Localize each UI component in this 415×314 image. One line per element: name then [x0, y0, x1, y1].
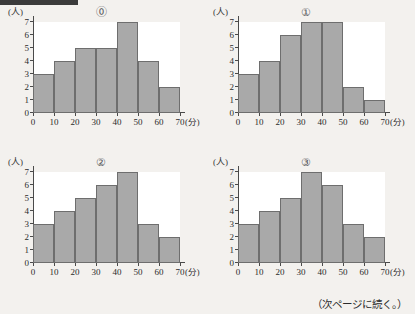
y-tick-label: 6: [224, 181, 234, 190]
x-tick: [138, 113, 139, 116]
y-tick: [30, 171, 33, 172]
y-tick: [235, 210, 238, 211]
y-axis-unit-0: (人): [8, 7, 23, 17]
x-tick-label: 40: [113, 268, 122, 277]
x-tick-label: 10: [50, 118, 59, 127]
x-tick: [159, 263, 160, 266]
y-tick-label: 3: [19, 70, 29, 79]
bar: [138, 61, 159, 113]
x-tick: [75, 263, 76, 266]
y-tick: [235, 184, 238, 185]
y-tick: [30, 223, 33, 224]
y-tick-label: 3: [224, 220, 234, 229]
chart-title-0: ⓪: [26, 6, 176, 18]
x-tick-label: 0: [31, 268, 36, 277]
y-tick: [30, 210, 33, 211]
x-tick: [301, 113, 302, 116]
bar: [301, 22, 322, 113]
y-tick: [30, 249, 33, 250]
y-tick-label: 2: [19, 233, 29, 242]
x-tick: [301, 263, 302, 266]
x-tick-label: 40: [318, 118, 327, 127]
x-tick: [180, 113, 181, 116]
bar: [301, 172, 322, 263]
bar: [96, 185, 117, 263]
bar: [364, 237, 385, 263]
x-tick: [54, 263, 55, 266]
x-tick-label: 20: [276, 268, 285, 277]
x-tick-label: 0: [31, 118, 36, 127]
bar: [238, 224, 259, 263]
y-tick: [235, 86, 238, 87]
chart-title-2: ②: [26, 156, 176, 168]
y-tick-label: 3: [19, 220, 29, 229]
y-tick-label: 5: [224, 44, 234, 53]
y-tick-label: 4: [224, 207, 234, 216]
x-tick-label: 70: [381, 118, 390, 127]
y-tick-label: 7: [19, 168, 29, 177]
y-tick-label: 1: [224, 96, 234, 105]
y-tick: [30, 73, 33, 74]
x-tick: [96, 113, 97, 116]
bar: [322, 22, 343, 113]
x-tick: [138, 263, 139, 266]
chart-title-3: ③: [231, 156, 381, 168]
histogram-2: 01234567010203040506070(分): [33, 172, 185, 276]
x-tick-label: 0: [236, 118, 241, 127]
x-tick: [259, 263, 260, 266]
x-tick-label: 10: [255, 268, 264, 277]
x-tick-label: 30: [297, 268, 306, 277]
y-tick-label: 1: [19, 246, 29, 255]
x-tick-label: 30: [92, 268, 101, 277]
x-tick-label: 50: [134, 118, 143, 127]
y-tick-label: 6: [19, 31, 29, 40]
continued-next-page-note: （次ページに続く。）: [312, 298, 407, 310]
x-tick: [280, 113, 281, 116]
y-axis-unit-3: (人): [213, 157, 228, 167]
y-tick-label: 2: [19, 83, 29, 92]
bar: [75, 48, 96, 113]
histogram-0: 01234567010203040506070(分): [33, 22, 185, 126]
y-tick: [30, 184, 33, 185]
histogram-figure-page: ⓪ (人) 01234567010203040506070(分) ① (人) 0…: [0, 0, 415, 314]
x-tick-label: 30: [92, 118, 101, 127]
bar: [75, 198, 96, 263]
y-tick-label: 5: [19, 194, 29, 203]
x-tick: [96, 263, 97, 266]
bar: [117, 172, 138, 263]
x-tick: [343, 263, 344, 266]
y-tick-label: 7: [224, 18, 234, 27]
bar: [343, 224, 364, 263]
y-tick: [235, 73, 238, 74]
y-tick: [30, 60, 33, 61]
x-tick-label: 10: [255, 118, 264, 127]
y-tick-label: 0: [224, 259, 234, 268]
y-tick: [30, 99, 33, 100]
bar: [259, 211, 280, 263]
bar: [117, 22, 138, 113]
x-tick: [259, 113, 260, 116]
x-tick-label: 0: [236, 268, 241, 277]
x-axis-unit: (分): [390, 118, 405, 127]
y-tick: [235, 47, 238, 48]
bar: [280, 198, 301, 263]
x-tick-label: 50: [339, 268, 348, 277]
y-tick: [30, 197, 33, 198]
y-tick-label: 7: [19, 18, 29, 27]
x-tick-label: 20: [71, 118, 80, 127]
y-tick: [30, 21, 33, 22]
bar: [343, 87, 364, 113]
y-tick-label: 5: [224, 194, 234, 203]
y-tick-label: 4: [224, 57, 234, 66]
x-tick-label: 70: [176, 268, 185, 277]
x-tick: [364, 113, 365, 116]
histogram-3: 01234567010203040506070(分): [238, 172, 390, 276]
x-tick: [117, 263, 118, 266]
x-tick-label: 20: [71, 268, 80, 277]
y-tick: [30, 86, 33, 87]
chart-grid: ⓪ (人) 01234567010203040506070(分) ① (人) 0…: [0, 0, 415, 314]
x-tick-label: 60: [360, 118, 369, 127]
y-tick: [235, 249, 238, 250]
x-tick: [385, 113, 386, 116]
y-tick-label: 0: [19, 259, 29, 268]
